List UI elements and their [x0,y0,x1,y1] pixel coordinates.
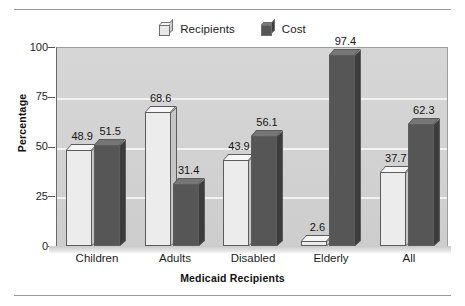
bar-value-label-adults-recipients: 68.6 [150,92,171,104]
bar-all-cost[interactable] [408,124,434,246]
bar-front-face [329,55,355,246]
bar-value-label-children-recipients: 48.9 [71,130,92,142]
x-axis-title: Medicaid Recipients [0,272,465,284]
bar-disabled-cost[interactable] [251,136,277,246]
top-divider-rule [14,9,451,10]
bar-value-label-adults-cost: 31.4 [178,164,199,176]
bar-value-label-disabled-cost: 56.1 [256,116,277,128]
bar-front-face [223,160,249,246]
bars-layer: 48.951.568.631.443.956.12.697.437.762.3 [57,48,447,246]
bar-side-face [120,140,126,246]
chart-figure: Recipients Cost 100 75 50 25 0 Percentag… [0,0,465,306]
plot-area: 48.951.568.631.443.956.12.697.437.762.3 [56,47,448,246]
dark-cube-icon [261,22,276,37]
y-tick-mark-75 [48,97,55,98]
light-cube-icon [159,22,174,37]
bar-front-face [94,145,120,246]
bar-value-label-all-cost: 62.3 [413,104,434,116]
x-tick-label-all: All [403,252,416,264]
bar-children-recipients[interactable] [66,150,92,246]
bar-all-recipients[interactable] [380,172,406,246]
y-tick-label-25: 25 [14,190,48,202]
legend-item-cost[interactable]: Cost [261,22,306,37]
bar-front-face [251,136,277,246]
x-tick-label-adults: Adults [159,252,191,264]
x-tick-label-elderly: Elderly [313,252,348,264]
legend-label-cost: Cost [282,23,306,35]
x-tick-label-disabled: Disabled [231,252,276,264]
bar-adults-recipients[interactable] [145,112,171,246]
bar-value-label-disabled-recipients: 43.9 [228,140,249,152]
y-tick-label-100: 100 [14,41,48,53]
y-tick-label-0: 0 [14,240,48,252]
legend-label-recipients: Recipients [180,23,235,35]
bar-front-face [408,124,434,246]
bar-children-cost[interactable] [94,145,120,246]
x-axis: Children Adults Disabled Elderly All [56,252,448,270]
bar-value-label-children-cost: 51.5 [99,125,120,137]
y-axis-title: Percentage [16,78,28,168]
legend-item-recipients[interactable]: Recipients [159,22,235,37]
bar-adults-cost[interactable] [173,184,199,246]
bar-elderly-cost[interactable] [329,55,355,246]
bar-value-label-elderly-recipients: 2.6 [310,221,325,233]
x-tick-label-children: Children [76,252,119,264]
y-tick-mark-50 [48,147,55,148]
bar-front-face [145,112,171,246]
bar-front-face [66,150,92,246]
bar-side-face [199,179,205,246]
bar-front-face [380,172,406,246]
chart-legend: Recipients Cost [0,18,465,40]
bar-side-face [434,119,440,246]
bar-disabled-recipients[interactable] [223,160,249,246]
bar-value-label-all-recipients: 37.7 [385,152,406,164]
y-tick-mark-100 [48,47,55,48]
y-tick-mark-25 [48,196,55,197]
bottom-divider-rule [14,295,451,296]
bar-front-face [173,184,199,246]
bar-side-face [277,131,283,246]
bar-side-face [355,50,361,246]
bar-value-label-elderly-cost: 97.4 [335,35,356,47]
